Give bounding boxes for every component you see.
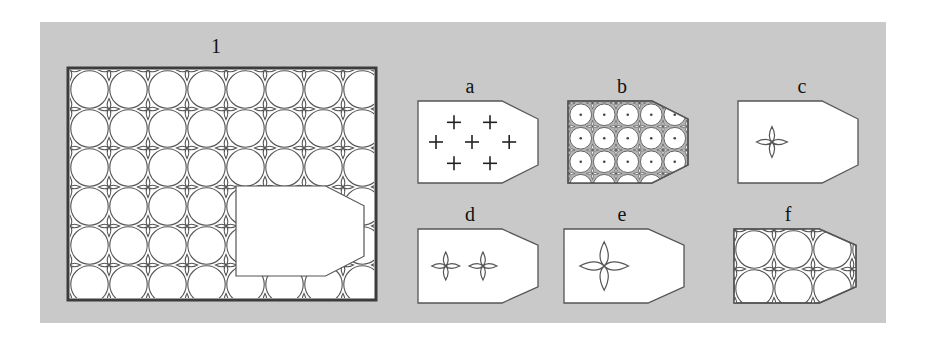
packing-center-dot — [650, 113, 653, 116]
packing-circle — [687, 99, 690, 102]
panel-1-graphic — [66, 66, 378, 302]
panel-b-graphic — [566, 99, 690, 185]
panel-label-1: 1 — [176, 36, 256, 56]
packing-star — [680, 167, 690, 179]
packing-center-dot — [579, 184, 582, 185]
panel-a — [416, 99, 540, 185]
panel-b — [566, 99, 690, 185]
panel-d-graphic — [416, 227, 540, 305]
panel-label-b: b — [582, 76, 662, 96]
packing-center-dot — [650, 184, 653, 185]
panel-f-outline — [734, 229, 856, 303]
packing-circle — [687, 174, 690, 185]
packing-center-dot — [626, 160, 629, 163]
panel-b-packing — [566, 99, 690, 185]
packing-center-dot — [650, 137, 653, 140]
panel-d — [416, 227, 540, 305]
packing-center-dot — [626, 184, 629, 185]
packing-center-dot — [673, 160, 676, 163]
packing-center-dot — [626, 137, 629, 140]
panel-label-a: a — [430, 76, 510, 96]
panel-1 — [66, 66, 378, 302]
panel-1-cutout — [236, 186, 364, 276]
packing-center-dot — [673, 113, 676, 116]
panel-a-graphic — [416, 99, 540, 185]
panel-f — [732, 227, 858, 305]
panel-label-f: f — [748, 204, 828, 224]
packing-center-dot — [603, 184, 606, 185]
panel-f-graphic — [732, 227, 858, 305]
panel-c-graphic — [736, 99, 860, 185]
figure-root: 1 a b c d e f — [0, 0, 929, 350]
panel-label-c: c — [762, 76, 842, 96]
packing-center-dot — [673, 137, 676, 140]
lattice-star — [841, 227, 858, 241]
panel-label-e: e — [582, 204, 662, 224]
packing-center-dot — [579, 137, 582, 140]
panel-c — [736, 99, 860, 185]
packing-center-dot — [673, 184, 676, 185]
packing-circle — [664, 99, 686, 102]
panel-label-d: d — [430, 204, 510, 224]
packing-center-dot — [579, 113, 582, 116]
packing-star — [680, 99, 690, 109]
packing-center-dot — [603, 113, 606, 116]
lattice-star — [841, 297, 858, 305]
panel-e — [562, 227, 686, 305]
packing-center-dot — [603, 137, 606, 140]
packing-center-dot — [626, 113, 629, 116]
packing-center-dot — [579, 160, 582, 163]
packing-center-dot — [650, 160, 653, 163]
panel-e-graphic — [562, 227, 686, 305]
packing-center-dot — [603, 160, 606, 163]
lattice-circle — [853, 227, 858, 229]
